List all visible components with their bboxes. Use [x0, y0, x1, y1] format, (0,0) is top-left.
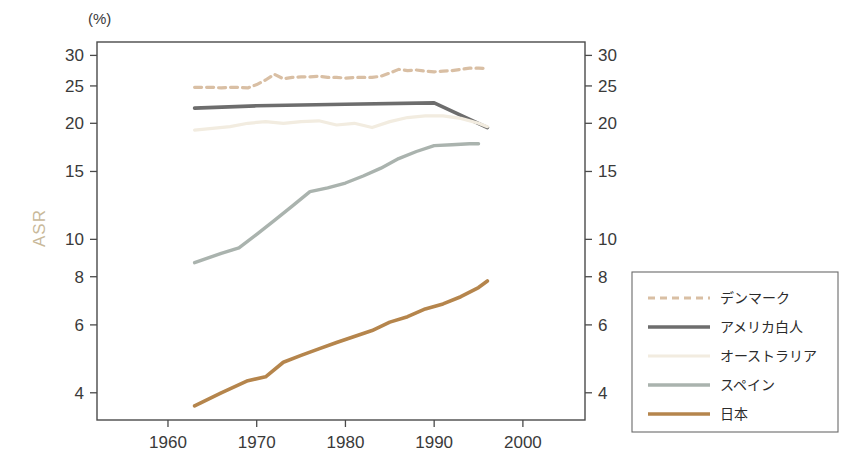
- series-line-2: [195, 116, 488, 130]
- y-tick-label-right: 8: [598, 268, 607, 287]
- y-tick-label-left: 10: [65, 230, 84, 249]
- y-tick-label-left: 20: [65, 114, 84, 133]
- y-axis-unit-label: (%): [88, 10, 111, 27]
- x-tick-label: 1990: [415, 433, 453, 452]
- x-tick-label: 1970: [238, 433, 276, 452]
- y-tick-label-right: 20: [598, 114, 617, 133]
- y-tick-label-right: 6: [598, 316, 607, 335]
- series-line-4: [195, 281, 488, 406]
- x-tick-label: 2000: [504, 433, 542, 452]
- legend-label-3: スペイン: [720, 377, 775, 393]
- chart-container: (%)ASR4466881010151520202525303019601970…: [0, 0, 844, 466]
- y-tick-label-left: 25: [65, 77, 84, 96]
- y-tick-label-right: 10: [598, 230, 617, 249]
- legend-label-2: オーストラリア: [720, 348, 817, 364]
- y-tick-label-right: 4: [598, 384, 607, 403]
- y-tick-label-left: 6: [75, 316, 84, 335]
- x-tick-label: 1960: [149, 433, 187, 452]
- y-tick-label-left: 4: [75, 384, 84, 403]
- legend-label-4: 日本: [720, 406, 748, 422]
- y-tick-label-right: 30: [598, 46, 617, 65]
- y-tick-label-left: 15: [65, 162, 84, 181]
- legend-label-1: アメリカ白人: [720, 319, 803, 335]
- plot-frame: [97, 42, 585, 420]
- y-tick-label-right: 15: [598, 162, 617, 181]
- series-line-0: [195, 68, 488, 88]
- y-tick-label-left: 8: [75, 268, 84, 287]
- y-axis-title: ASR: [30, 209, 49, 247]
- legend-label-0: デンマーク: [720, 290, 790, 306]
- line-chart: (%)ASR4466881010151520202525303019601970…: [0, 0, 844, 466]
- y-tick-label-left: 30: [65, 46, 84, 65]
- x-tick-label: 1980: [327, 433, 365, 452]
- y-tick-label-right: 25: [598, 77, 617, 96]
- series-line-3: [195, 144, 479, 263]
